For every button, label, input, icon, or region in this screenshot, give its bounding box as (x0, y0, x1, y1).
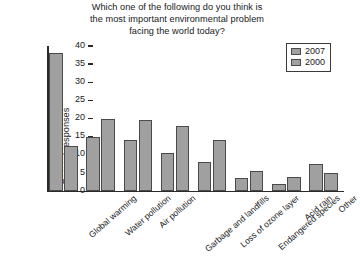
legend-swatch-icon (291, 59, 301, 66)
chart-title: Which one of the following do you think … (62, 1, 292, 38)
y-axis-tick-mark (88, 100, 93, 101)
chart-title-line-2: the most important environmental problem (62, 13, 292, 25)
y-axis-tick-mark (88, 82, 93, 83)
bar (324, 173, 338, 191)
bar (235, 178, 249, 191)
bar (86, 137, 100, 191)
legend-label: 2007 (305, 46, 325, 57)
legend-label: 2000 (305, 57, 325, 68)
chart-title-line-3: facing the world today? (62, 25, 292, 37)
y-axis-tick-mark (88, 63, 93, 64)
legend-swatch-icon (291, 48, 301, 55)
x-axis-tick-label: Other (337, 193, 360, 215)
bar (176, 126, 190, 191)
y-axis-tick-mark (88, 45, 93, 46)
bar (198, 162, 212, 191)
legend-item: 2007 (291, 46, 325, 57)
chart-title-line-1: Which one of the following do you think … (62, 1, 292, 13)
chart-legend: 20072000 (286, 43, 331, 72)
bar (139, 120, 153, 191)
bar (309, 164, 323, 191)
bar (161, 153, 175, 191)
bar (272, 184, 286, 191)
bar (64, 146, 78, 191)
bar (101, 119, 115, 192)
bar (213, 140, 227, 191)
y-axis-tick-mark (88, 118, 93, 119)
bar (124, 140, 138, 191)
legend-item: 2000 (291, 57, 325, 68)
bar (287, 177, 301, 192)
bar (250, 171, 264, 191)
y-axis-tick-label: 40 (47, 40, 85, 50)
bar (49, 53, 63, 191)
